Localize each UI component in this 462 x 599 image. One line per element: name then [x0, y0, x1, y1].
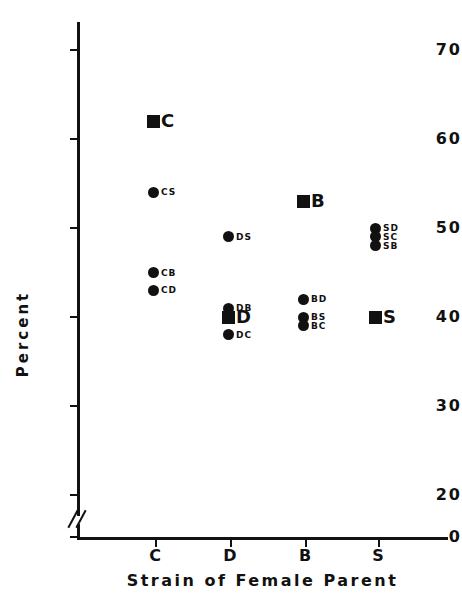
circle-marker-icon — [148, 285, 159, 296]
data-point-label-DC: DC — [236, 331, 252, 340]
y-tick-0 — [70, 536, 78, 538]
circle-marker-icon — [223, 231, 234, 242]
axis-break-icon — [68, 508, 90, 530]
data-point-label-C: C — [161, 112, 174, 130]
data-point-label-CD: CD — [161, 286, 177, 295]
y-tick-label-20: 20 — [410, 487, 462, 503]
x-tick-label-D: D — [215, 548, 245, 564]
y-tick-50 — [70, 227, 78, 229]
circle-marker-icon — [148, 187, 159, 198]
data-point-label-B: B — [311, 192, 325, 210]
y-tick-label-40: 40 — [410, 309, 462, 325]
y-axis-title: Percent — [14, 269, 32, 399]
x-axis-title: Strain of Female Parent — [77, 571, 448, 590]
data-point-label-BC: BC — [311, 322, 326, 331]
data-point-label-S: S — [383, 308, 396, 326]
y-tick-60 — [70, 138, 78, 140]
y-tick-label-50: 50 — [410, 220, 462, 236]
x-tick-label-S: S — [363, 548, 393, 564]
circle-marker-icon — [298, 294, 309, 305]
data-point-label-BD: BD — [311, 295, 327, 304]
x-axis-line — [77, 537, 448, 540]
data-point-label-DS: DS — [236, 233, 252, 242]
data-point-label-CS: CS — [161, 188, 176, 197]
y-tick-label-70: 70 — [410, 42, 462, 58]
square-marker-icon — [222, 311, 235, 324]
y-tick-30 — [70, 405, 78, 407]
circle-marker-icon — [298, 320, 309, 331]
square-marker-icon — [369, 311, 382, 324]
y-tick-label-30: 30 — [410, 398, 462, 414]
x-tick-label-B: B — [290, 548, 320, 564]
data-point-label-CB: CB — [161, 269, 176, 278]
scatter-plot-figure: 7060504030200 CDBS CCSCBCDDSDBDDCBBDBSBC… — [0, 0, 462, 599]
x-tick-label-C: C — [140, 548, 170, 564]
y-tick-40 — [70, 316, 78, 318]
y-tick-label-60: 60 — [410, 131, 462, 147]
y-tick-label-0: 0 — [410, 529, 462, 545]
data-point-label-D: D — [236, 308, 251, 326]
y-axis-line — [77, 22, 80, 516]
circle-marker-icon — [148, 267, 159, 278]
square-marker-icon — [297, 195, 310, 208]
y-tick-20 — [70, 494, 78, 496]
circle-marker-icon — [223, 329, 234, 340]
data-point-label-SB: SB — [383, 242, 398, 251]
y-tick-70 — [70, 49, 78, 51]
square-marker-icon — [147, 115, 160, 128]
circle-marker-icon — [370, 240, 381, 251]
